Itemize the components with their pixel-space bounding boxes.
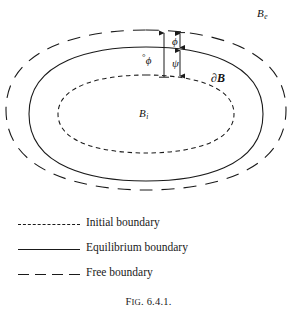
phi-reference-arrow	[159, 33, 169, 77]
legend-swatch-dashed-long-icon	[18, 274, 80, 275]
legend: Initial boundary Equilibrium boundary Fr…	[0, 213, 297, 288]
figure-caption: FIG. 6.4.1.	[0, 296, 297, 307]
legend-item-equilibrium-boundary: Equilibrium boundary	[0, 238, 297, 263]
label-psi: ψ	[172, 58, 179, 69]
legend-swatch-dashed-short-icon	[18, 224, 80, 225]
label-phi-reference: °ϕ	[142, 53, 152, 66]
label-boundary: ∂B	[211, 72, 225, 84]
label-phi: ϕ	[172, 36, 178, 47]
legend-label-equilibrium-boundary: Equilibrium boundary	[86, 241, 188, 253]
legend-item-free-boundary: Free boundary	[0, 263, 297, 288]
figure-6-4-1: Be Bi ∂B ϕ °ϕ ψ Initial boundary Equilib…	[0, 0, 297, 319]
caption-number: . 6.4.1.	[141, 296, 171, 307]
legend-label-free-boundary: Free boundary	[86, 266, 153, 278]
legend-swatch-solid-icon	[18, 249, 80, 250]
label-interior-region: Bi	[139, 108, 148, 121]
legend-label-initial-boundary: Initial boundary	[86, 216, 160, 228]
caption-smallcaps: IG	[132, 297, 141, 307]
legend-item-initial-boundary: Initial boundary	[0, 213, 297, 238]
label-exterior-region: Be	[257, 8, 267, 21]
